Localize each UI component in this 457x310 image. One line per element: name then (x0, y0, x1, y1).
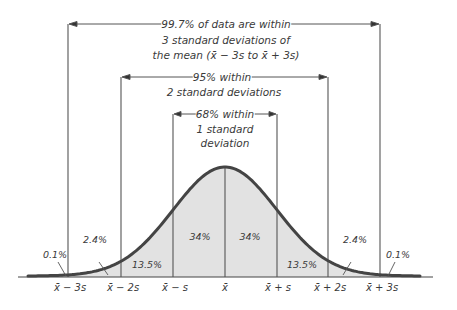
curve-fill (68, 167, 380, 277)
tick-label: x̄ + 2s (314, 282, 346, 293)
one-sd-line-3: deviation (201, 137, 250, 150)
three-sd-label-3: the mean (x̄ − 3s to x̄ + 3s) (153, 49, 300, 62)
region-label: 34% (189, 231, 210, 242)
tick-label: x̄ + s (265, 282, 291, 293)
three-sd-line-3: the mean (x̄ − 3s to x̄ + 3s) (153, 49, 300, 62)
tick-label: x̄ − s (162, 282, 188, 293)
one-sd-label: 68% within (196, 108, 255, 121)
tick-label: x̄ − 3s (54, 282, 86, 293)
one-sd-line-2: 1 standard (197, 123, 254, 136)
tick-label: x̄ − 2s (107, 282, 139, 293)
three-sd-line-2: 3 standard deviations of (162, 34, 290, 47)
one-sd-label-3: deviation (201, 137, 250, 150)
region-label: 2.4% (343, 234, 367, 245)
one-sd-label-2: 1 standard (197, 123, 254, 136)
two-sd-line-1: 95% within (193, 71, 252, 84)
region-label: 0.1% (43, 249, 67, 260)
three-sd-label-2: 3 standard deviations of (162, 34, 290, 47)
two-sd-line-2: 2 standard deviations (167, 86, 281, 99)
one-sd-line-1: 68% within (196, 108, 255, 121)
three-sd-line-1: 99.7% of data are within (161, 18, 291, 31)
three-sd-label: 99.7% of data are within (161, 18, 291, 31)
region-label: 34% (239, 231, 260, 242)
region-label: 0.1% (386, 249, 410, 260)
region-label: 13.5% (287, 259, 317, 270)
region-label: 13.5% (132, 259, 162, 270)
tick-label: x̄ (222, 282, 228, 293)
two-sd-label-2: 2 standard deviations (167, 86, 281, 99)
two-sd-label: 95% within (193, 71, 252, 84)
tick-label: x̄ + 3s (366, 282, 398, 293)
region-label: 2.4% (83, 234, 107, 245)
